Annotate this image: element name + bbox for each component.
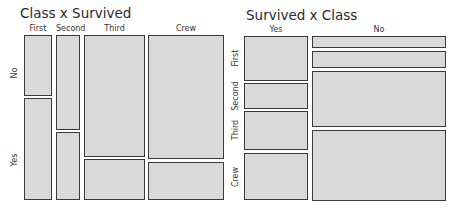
mosaic-tile-no-third [312,71,446,127]
left-column-label: Third [84,24,145,33]
mosaic-tile-no-second [312,51,446,68]
left-row-label: No [10,53,20,93]
mosaic-tile-crew-no [148,35,224,159]
mosaic-tile-yes-first [244,36,308,81]
mosaic-tile-first-yes [24,98,52,200]
right-column-label: Yes [244,25,308,34]
mosaic-tile-first-no [24,35,52,96]
mosaic-tile-no-crew [312,130,446,201]
mosaic-tile-third-yes [84,159,145,200]
right-row-label: Crew [231,157,241,197]
mosaic-tile-second-yes [56,132,80,200]
mosaic-tile-yes-third [244,111,308,150]
right-row-label: Third [231,110,241,150]
mosaic-tile-third-no [84,35,145,157]
mosaic-tile-crew-yes [148,162,224,200]
mosaic-tile-no-first [312,36,446,48]
left-column-label: Crew [148,24,224,33]
mosaic-tile-yes-crew [244,153,308,200]
mosaic-tile-second-no [56,35,80,130]
right-chart-title: Survived x Class [246,7,357,23]
left-column-label: Second [56,24,80,33]
mosaic-tile-yes-second [244,83,308,109]
left-row-label: Yes [10,140,20,180]
right-row-label: First [231,38,241,78]
right-column-label: No [312,25,446,34]
left-chart-title: Class x Survived [20,5,131,21]
left-column-label: First [24,24,52,33]
